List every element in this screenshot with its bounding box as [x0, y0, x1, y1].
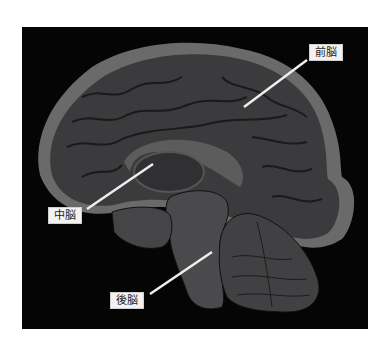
pons-region	[112, 207, 172, 248]
label-midbrain: 中脳	[48, 207, 82, 224]
label-forebrain: 前脳	[309, 44, 343, 61]
label-hindbrain: 後脳	[110, 292, 144, 309]
diagram-panel	[22, 27, 368, 329]
thalamus-oval	[134, 152, 204, 192]
brain-illustration	[22, 27, 368, 329]
